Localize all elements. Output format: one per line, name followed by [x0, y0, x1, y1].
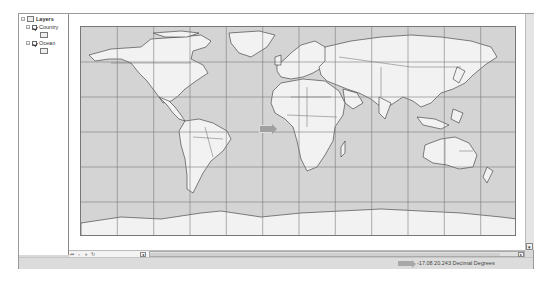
toc-root[interactable]: − Layers	[21, 16, 54, 22]
scroll-thumb[interactable]	[150, 253, 500, 256]
annotation-arrow-icon	[259, 125, 273, 133]
vertical-scrollbar[interactable]: ▾	[525, 14, 534, 250]
world-map-canvas	[81, 27, 516, 236]
country-symbol-icon	[40, 32, 48, 38]
toc-root-label: Layers	[36, 16, 54, 22]
greenland-shape	[229, 31, 275, 57]
table-of-contents: − Layers − Country − Ocean	[19, 14, 69, 255]
layers-icon	[27, 16, 34, 22]
collapse-icon[interactable]: −	[26, 41, 30, 45]
layer-label: Country	[39, 24, 58, 30]
collapse-icon[interactable]: −	[26, 25, 30, 29]
collapse-icon[interactable]: −	[21, 17, 25, 21]
status-bar: -17.08 20.243 Decimal Degrees	[19, 257, 533, 269]
layer-visibility-checkbox[interactable]	[32, 25, 37, 30]
antarctica-shape	[81, 209, 516, 236]
map-view[interactable]	[69, 14, 525, 250]
toc-layer-ocean[interactable]: − Ocean	[26, 40, 55, 46]
scroll-down-button[interactable]: ▾	[526, 243, 533, 250]
layer-visibility-checkbox[interactable]	[32, 41, 37, 46]
pointer-arrow-icon	[398, 261, 412, 266]
world-map[interactable]	[80, 26, 516, 236]
south-america-shape	[179, 119, 231, 193]
ocean-symbol-icon	[40, 48, 48, 54]
africa-shape	[271, 79, 345, 171]
coordinate-readout: -17.08 20.243 Decimal Degrees	[417, 260, 495, 266]
layer-label: Ocean	[39, 40, 55, 46]
australia-shape	[423, 137, 477, 169]
north-america-shape	[89, 35, 211, 103]
toc-layer-country[interactable]: − Country	[26, 24, 58, 30]
